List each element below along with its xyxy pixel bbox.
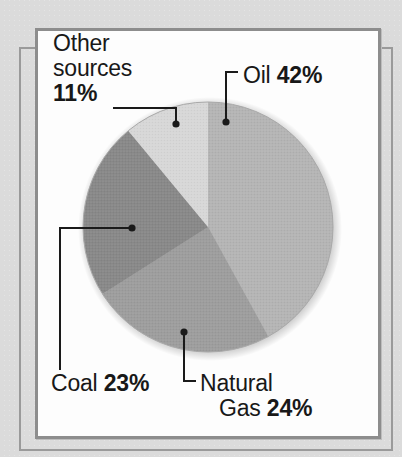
pie-label-other-sources-line1: Other	[53, 31, 132, 56]
pie-label-natural-gas-line2: Gas	[219, 395, 261, 421]
pie-label-other-sources-line2: sources	[53, 56, 132, 81]
pie-label-natural-gas-value: 24%	[267, 395, 312, 421]
pie-label-coal: Coal 23%	[51, 371, 149, 396]
pie-label-oil-name: Oil	[243, 62, 271, 88]
pie-label-coal-value: 23%	[104, 370, 149, 396]
pie-label-natural-gas-line2-group: Gas 24%	[200, 396, 312, 421]
pie-label-coal-name: Coal	[51, 370, 98, 396]
pie-label-natural-gas: Natural Gas 24%	[200, 371, 312, 421]
pie-label-other-sources: Other sources 11%	[53, 31, 132, 106]
pie-label-other-sources-value: 11%	[53, 81, 132, 106]
pie-label-natural-gas-line1: Natural	[200, 370, 273, 396]
pie-label-oil-value: 42%	[277, 62, 322, 88]
pie-label-oil: Oil 42%	[243, 63, 322, 88]
